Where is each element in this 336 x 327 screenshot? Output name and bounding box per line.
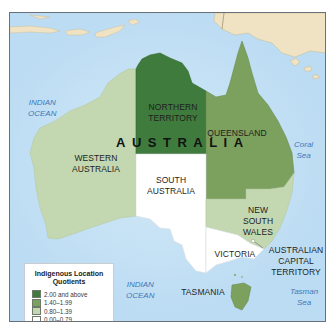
legend-item: 2.00 and above [32,290,113,299]
label-victoria: VICTORIA [211,249,259,260]
legend-swatch [32,307,41,315]
legend-swatch [32,299,41,307]
legend-swatch [32,316,41,322]
legend-item: 0.80–1.39 [32,307,113,316]
legend-title: Indigenous LocationQuotients [25,270,113,286]
country-label: AUSTRALIA [116,137,250,148]
legend: Indigenous LocationQuotients 2.00 and ab… [24,263,114,322]
region-act[interactable] [251,239,254,242]
ocean-label-coral-sea: CoralSea [294,139,313,161]
legend-swatch [32,290,41,298]
legend-item: 1.40–1.99 [32,299,113,308]
label-act: AUSTRALIANCAPITALTERRITORY [268,245,324,278]
ocean-label-indian-north: INDIANOCEAN [28,97,56,119]
label-south-australia: SOUTHAUSTRALIA [143,175,199,197]
ocean-label-indian-south: INDIANOCEAN [126,279,154,301]
label-western-australia: WESTERNAUSTRALIA [66,153,126,175]
label-northern-territory: NORTHERNTERRITORY [145,102,201,124]
legend-item: 0.00–0.79 [32,316,113,323]
map-frame: INDIANOCEAN INDIANOCEAN CoralSea TasmanS… [9,12,326,322]
label-tasmania: TASMANIA [177,287,229,298]
label-new-south-wales: NEWSOUTHWALES [236,205,280,238]
ocean-label-tasman-sea: TasmanSea [290,286,318,308]
